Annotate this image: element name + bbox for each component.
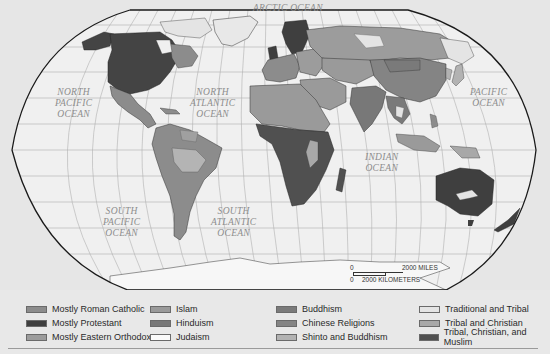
legend-item-islam: Islam [150,302,214,316]
label-south-atlantic-ocean: SOUTH ATLANTIC OCEAN [211,206,256,239]
legend-label: Mostly Protestant [52,318,122,328]
legend-column-christianity: Mostly Roman Catholic Mostly Protestant … [26,302,151,344]
legend-label: Buddhism [302,304,342,314]
legend-item-chinese-religions: Chinese Religions [276,316,388,330]
legend-label: Mostly Roman Catholic [52,304,145,314]
swatch-judaism [150,334,171,341]
scale-km-zero: 0 [350,276,354,283]
swatch-tribal-christian-muslim [419,334,439,341]
label-south-pacific-ocean: SOUTH PACIFIC OCEAN [103,206,140,239]
swatch-traditional-tribal [419,306,440,313]
legend-label: Shinto and Buddhism [302,332,388,342]
legend-item-hinduism: Hinduism [150,316,214,330]
swatch-protestant [26,320,47,327]
swatch-eastern-orthodox [26,334,47,341]
legend-column-4: Traditional and Tribal Tribal and Christ… [419,302,550,344]
legend-divider [8,348,538,349]
label-north-atlantic-ocean: NORTH ATLANTIC OCEAN [190,87,235,120]
legend-label: Mostly Eastern Orthodox [52,332,151,342]
legend-column-2: Islam Hinduism Judaism [150,302,214,344]
legend-item-buddhism: Buddhism [276,302,388,316]
swatch-chinese-religions [276,320,297,327]
swatch-roman-catholic [26,306,47,313]
legend-label: Traditional and Tribal [445,304,529,314]
legend-item-protestant: Mostly Protestant [26,316,151,330]
legend-label: Tribal, Christian, and Muslim [444,327,550,347]
legend-item-tribal-christian-muslim: Tribal, Christian, and Muslim [419,330,550,344]
world-religions-map: ARCTIC OCEAN NORTH PACIFIC OCEAN NORTH A… [0,0,550,290]
scale-miles-zero: 0 [350,264,354,271]
legend-label: Judaism [176,332,210,342]
legend-item-roman-catholic: Mostly Roman Catholic [26,302,151,316]
legend-label: Islam [176,304,198,314]
label-north-pacific-ocean: NORTH PACIFIC OCEAN [55,87,92,120]
swatch-shinto-buddhism [276,334,297,341]
legend-column-3: Buddhism Chinese Religions Shinto and Bu… [276,302,388,344]
label-indian-ocean: INDIAN OCEAN [365,152,398,174]
scale-km-label: 2000 KILOMETERS [362,276,420,283]
swatch-tribal-christian [419,320,440,327]
scale-bar: 0 2000 MILES 0 2000 KILOMETERS [350,262,460,288]
legend-item-eastern-orthodox: Mostly Eastern Orthodox [26,330,151,344]
swatch-buddhism [276,306,297,313]
region-guiana [180,130,198,142]
legend-item-shinto-buddhism: Shinto and Buddhism [276,330,388,344]
legend-label: Chinese Religions [302,318,375,328]
legend-label: Hinduism [176,318,214,328]
map-legend: Mostly Roman Catholic Mostly Protestant … [0,290,550,354]
legend-item-judaism: Judaism [150,330,214,344]
label-pacific-ocean: PACIFIC OCEAN [470,87,507,109]
map-canvas [0,0,550,290]
legend-item-traditional-tribal: Traditional and Tribal [419,302,550,316]
swatch-hinduism [150,320,171,327]
region-mongolia [384,60,420,72]
scale-miles-label: 2000 MILES [402,264,438,271]
label-arctic-ocean: ARCTIC OCEAN [253,3,323,14]
swatch-islam [150,306,171,313]
